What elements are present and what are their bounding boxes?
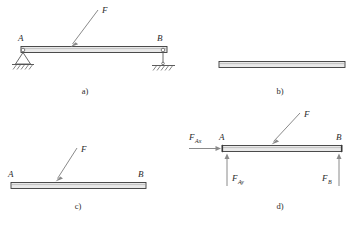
panel-d-force-arrow <box>272 113 301 145</box>
fb-sub: B <box>328 179 332 185</box>
panel-b-beam <box>219 62 345 68</box>
beam-bar <box>21 47 167 53</box>
force-arrow-head <box>272 140 280 145</box>
fb-base: F <box>321 173 328 183</box>
beam-bar <box>11 183 146 189</box>
panel-b-caption: b) <box>276 86 283 96</box>
panel-a-caption: a) <box>82 86 89 96</box>
panel-d: F A B F Ax F Ay <box>188 109 342 211</box>
panel-c-force-label: F <box>80 144 87 154</box>
reaction-label-fb: F B <box>321 173 332 185</box>
force-arrow-shaft <box>73 10 99 44</box>
pin-hinge-circle <box>21 48 25 52</box>
panel-a: F A B <box>12 5 175 96</box>
fay-sub: Ay <box>237 179 244 185</box>
fay-arrow-head <box>225 154 230 160</box>
fax-arrow-head <box>216 146 222 151</box>
panel-d-caption: d) <box>276 201 283 211</box>
beam-bar <box>222 146 342 152</box>
reaction-arrow-fax <box>189 146 221 151</box>
panel-c-beam <box>11 183 146 189</box>
reaction-label-fay: F Ay <box>231 173 244 185</box>
panel-d-beam <box>222 145 342 152</box>
figure-root: F A B <box>0 0 362 227</box>
panel-c: F A B c) <box>7 144 146 211</box>
roller-wheel <box>162 62 165 65</box>
panel-c-label-A: A <box>7 169 14 179</box>
roller-hinge-circle <box>161 48 165 52</box>
panel-a-label-A: A <box>17 33 24 43</box>
panel-d-force-label: F <box>303 109 310 119</box>
fax-sub: Ax <box>194 138 202 144</box>
reaction-arrow-fb <box>337 154 342 187</box>
panel-c-label-B: B <box>138 169 144 179</box>
panel-b: b) <box>219 62 345 97</box>
pin-triangle <box>16 53 31 65</box>
force-arrow-shaft <box>58 148 78 179</box>
panel-a-force-label: F <box>101 5 108 15</box>
panel-d-label-A: A <box>218 132 225 142</box>
panel-c-caption: c) <box>75 201 82 211</box>
roller-ground-hatching <box>153 66 173 71</box>
fay-base: F <box>231 173 238 183</box>
reaction-arrow-fay <box>225 154 230 187</box>
beam-bar <box>219 62 345 68</box>
fb-arrow-head <box>337 154 342 160</box>
statics-figure: F A B <box>0 0 362 227</box>
panel-a-beam <box>21 47 167 53</box>
reaction-label-fax: F Ax <box>188 132 202 144</box>
panel-a-force-arrow <box>71 10 99 47</box>
force-arrow-head <box>56 177 64 182</box>
fax-base: F <box>188 132 195 142</box>
force-arrow-shaft <box>274 113 301 142</box>
panel-d-label-B: B <box>336 132 342 142</box>
panel-a-label-B: B <box>157 33 163 43</box>
panel-c-force-arrow <box>56 148 78 182</box>
pin-ground-hatching <box>13 65 33 70</box>
